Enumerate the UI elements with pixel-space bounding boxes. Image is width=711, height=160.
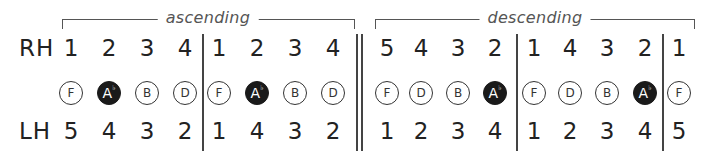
lh-finger-number: 2 <box>172 118 198 144</box>
lh-finger-number: 5 <box>58 118 84 144</box>
note-circle: F <box>59 81 83 105</box>
rh-finger-number: 1 <box>58 35 84 61</box>
lh-finger-number: 2 <box>408 118 434 144</box>
note-circle: B <box>283 81 307 105</box>
note-name: B <box>454 86 462 100</box>
lh-finger-number: 5 <box>666 118 692 144</box>
rh-finger-number: 1 <box>206 35 232 61</box>
rh-label: RH <box>19 35 54 61</box>
bar-line <box>662 34 664 151</box>
note-name: F <box>216 86 223 100</box>
lh-finger-number: 4 <box>632 118 658 144</box>
note-circle: B <box>446 81 470 105</box>
note-circle: F <box>207 81 231 105</box>
lh-finger-number: 2 <box>557 118 583 144</box>
note-circle-filled: A♭ <box>245 81 269 105</box>
flat-icon: ♭ <box>648 84 651 92</box>
note-circle-filled: A♭ <box>483 81 507 105</box>
note-name: A <box>251 85 261 101</box>
lh-finger-number: 3 <box>445 118 471 144</box>
note-name: B <box>291 86 299 100</box>
note-circle: D <box>173 81 197 105</box>
rh-finger-number: 4 <box>557 35 583 61</box>
flat-icon: ♭ <box>498 84 501 92</box>
note-circle: F <box>667 81 691 105</box>
bar-line <box>202 34 204 151</box>
lh-finger-number: 4 <box>244 118 270 144</box>
note-name: D <box>180 86 189 100</box>
lh-finger-number: 4 <box>96 118 122 144</box>
lh-finger-number: 4 <box>482 118 508 144</box>
double-bar-line-right <box>361 34 363 151</box>
double-bar-line-left <box>356 34 358 151</box>
rh-finger-number: 1 <box>666 35 692 61</box>
rh-finger-number: 3 <box>134 35 160 61</box>
rh-finger-number: 5 <box>374 35 400 61</box>
ascending-label: ascending <box>158 8 259 28</box>
rh-finger-number: 3 <box>282 35 308 61</box>
rh-finger-number: 2 <box>632 35 658 61</box>
note-circle-filled: A♭ <box>633 81 657 105</box>
note-name: D <box>328 86 337 100</box>
note-name: F <box>676 86 683 100</box>
descending-label: descending <box>479 8 590 28</box>
note-circle: F <box>375 81 399 105</box>
note-name: A <box>639 85 649 101</box>
rh-finger-number: 2 <box>244 35 270 61</box>
rh-finger-number: 3 <box>594 35 620 61</box>
note-circle: D <box>558 81 582 105</box>
note-circle: D <box>409 81 433 105</box>
flat-icon: ♭ <box>112 84 115 92</box>
note-circle: D <box>321 81 345 105</box>
note-name: F <box>68 86 75 100</box>
note-circle: B <box>135 81 159 105</box>
lh-label: LH <box>19 118 51 144</box>
rh-finger-number: 2 <box>96 35 122 61</box>
rh-finger-number: 4 <box>408 35 434 61</box>
note-circle-filled: A♭ <box>97 81 121 105</box>
flat-icon: ♭ <box>260 84 263 92</box>
note-name: A <box>103 85 113 101</box>
note-name: B <box>603 86 611 100</box>
note-name: F <box>531 86 538 100</box>
lh-finger-number: 3 <box>134 118 160 144</box>
note-name: B <box>143 86 151 100</box>
lh-finger-number: 3 <box>282 118 308 144</box>
note-circle: B <box>595 81 619 105</box>
note-name: D <box>565 86 574 100</box>
note-name: D <box>416 86 425 100</box>
rh-finger-number: 2 <box>482 35 508 61</box>
lh-finger-number: 1 <box>374 118 400 144</box>
rh-finger-number: 4 <box>172 35 198 61</box>
lh-finger-number: 2 <box>320 118 346 144</box>
note-circle: F <box>522 81 546 105</box>
lh-finger-number: 1 <box>521 118 547 144</box>
note-name: A <box>489 85 499 101</box>
rh-finger-number: 3 <box>445 35 471 61</box>
rh-finger-number: 4 <box>320 35 346 61</box>
note-name: F <box>384 86 391 100</box>
bar-line <box>516 34 518 151</box>
lh-finger-number: 1 <box>206 118 232 144</box>
lh-finger-number: 3 <box>594 118 620 144</box>
rh-finger-number: 1 <box>521 35 547 61</box>
